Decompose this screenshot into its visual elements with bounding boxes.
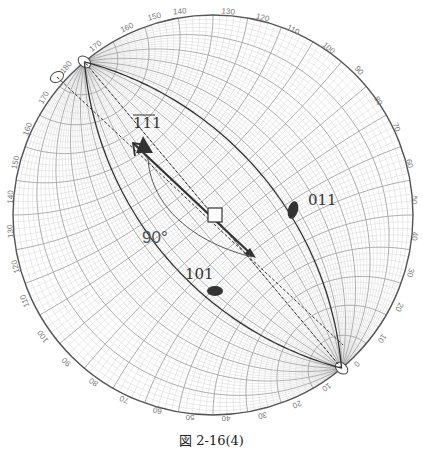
pole-label-011: 011 bbox=[308, 191, 337, 209]
scale-label: 150 bbox=[147, 10, 163, 22]
scale-label: 10 bbox=[375, 332, 388, 345]
scale-label: 60 bbox=[404, 158, 415, 169]
scale-label: 90 bbox=[353, 64, 366, 77]
scale-label: 120 bbox=[9, 259, 21, 275]
scale-label: 20 bbox=[291, 398, 303, 410]
scale-label: 120 bbox=[255, 12, 271, 24]
scale-label: 160 bbox=[119, 21, 135, 35]
scale-label: 20 bbox=[393, 301, 405, 313]
scale-label: 40 bbox=[221, 414, 230, 423]
scale-label: 30 bbox=[405, 267, 416, 278]
pole-101-marker bbox=[207, 286, 223, 296]
scale-label: 140 bbox=[6, 190, 15, 204]
scale-label: 90 bbox=[60, 355, 73, 368]
wulff-net-diagram: 1401301501201601101701001809017080160701… bbox=[0, 0, 423, 456]
pole-label-101: 101 bbox=[185, 265, 214, 283]
scale-label: 70 bbox=[118, 393, 130, 405]
scale-label: 150 bbox=[10, 154, 22, 169]
scale-label: 50 bbox=[410, 196, 419, 205]
scale-label: 50 bbox=[185, 413, 194, 422]
figure-caption: 図 2-16(4) bbox=[0, 430, 423, 449]
scale-label: 40 bbox=[410, 231, 420, 241]
center-pole-square bbox=[208, 208, 222, 222]
pole-label-111: 111 bbox=[133, 114, 162, 132]
scale-label: 140 bbox=[173, 6, 188, 16]
scale-label: 80 bbox=[87, 375, 100, 388]
scale-label: 130 bbox=[221, 6, 236, 16]
scale-label: 130 bbox=[5, 224, 15, 239]
angle-label: 90° bbox=[142, 228, 168, 247]
scale-label: 100 bbox=[321, 40, 337, 56]
scale-label: 0 bbox=[352, 359, 362, 369]
scale-label: 30 bbox=[257, 410, 268, 421]
scale-label: 70 bbox=[391, 121, 403, 133]
scale-label: 100 bbox=[35, 328, 50, 345]
